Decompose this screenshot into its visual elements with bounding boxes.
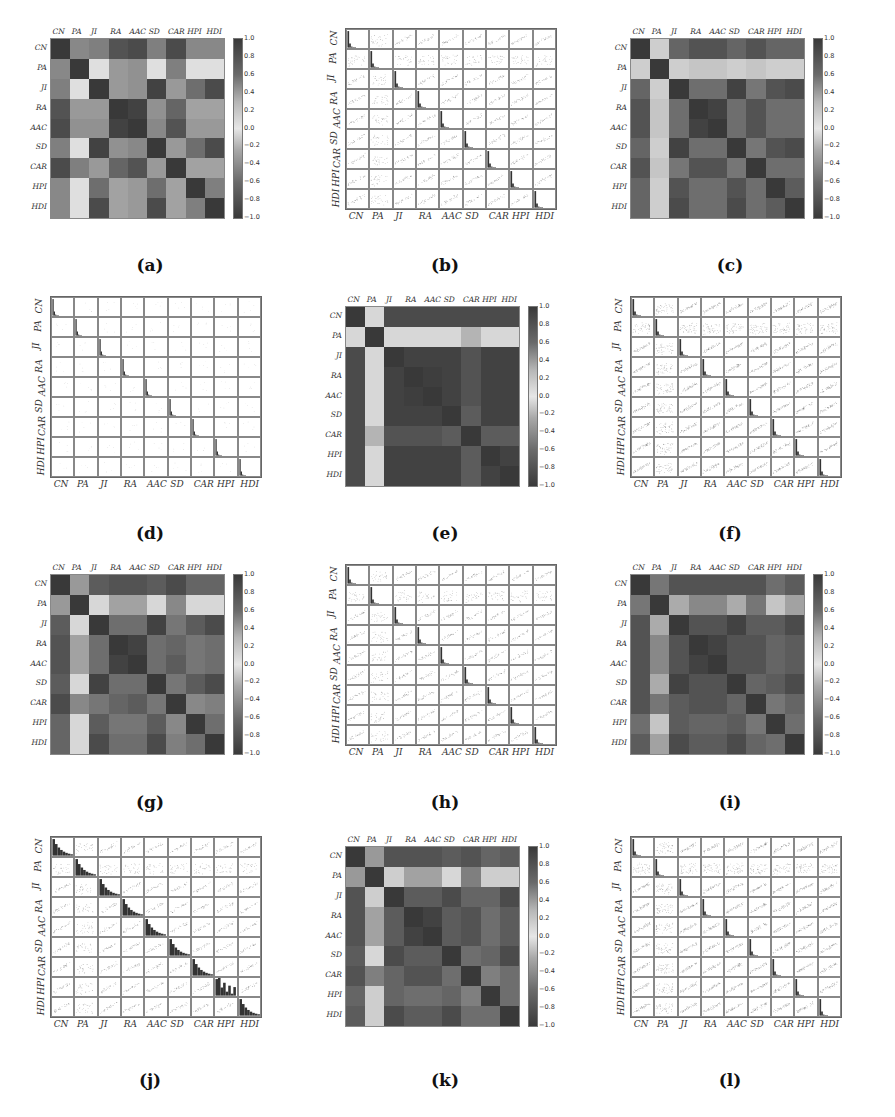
heatmap-cell xyxy=(70,595,89,615)
scatter-cell xyxy=(51,997,74,1017)
heatmap-cell xyxy=(70,158,89,178)
y-axis-label: RA xyxy=(614,359,624,372)
y-axis-label: PA xyxy=(332,871,342,880)
heatmap-cell xyxy=(147,694,166,714)
scatter-cell xyxy=(168,957,191,977)
heatmap-cell xyxy=(128,635,147,655)
heatmap-cell xyxy=(423,847,442,867)
scatter-cell xyxy=(678,997,701,1017)
heatmap-cell xyxy=(109,158,128,178)
scatter-cell xyxy=(369,189,392,209)
heatmap-cell xyxy=(689,39,708,59)
colorbar-tick: −0.2 xyxy=(824,141,840,149)
heatmap-cell xyxy=(166,734,185,754)
scatter-cell xyxy=(701,417,724,437)
scatter-cell xyxy=(439,565,462,585)
heatmap-cell xyxy=(166,99,185,119)
heatmap-cell xyxy=(481,446,500,466)
scatter-cell xyxy=(238,317,261,337)
scatter-cell xyxy=(631,857,654,877)
y-axis-label: CN xyxy=(330,851,342,860)
histogram-cell xyxy=(463,665,486,685)
scatter-cell xyxy=(214,377,237,397)
x-axis-label: HPI xyxy=(217,1019,234,1029)
heatmap-cell xyxy=(708,79,727,99)
scatter-cell xyxy=(191,877,214,897)
heatmap-cell xyxy=(727,198,746,218)
colorbar-tick: −0.6 xyxy=(539,445,555,453)
heatmap-cell xyxy=(186,138,205,158)
scatter-cell xyxy=(74,877,97,897)
heatmap-cell xyxy=(186,39,205,59)
y-axis-label: JI xyxy=(41,619,47,628)
scatter-cell xyxy=(346,169,369,189)
heatmap-cell xyxy=(650,99,669,119)
x-axis-label: CAR xyxy=(774,1019,794,1029)
scatter-cell xyxy=(51,317,74,337)
heatmap-cell xyxy=(384,907,403,927)
heatmap-cell xyxy=(746,119,765,139)
heatmap-cell xyxy=(346,986,365,1006)
scatter-cell xyxy=(509,685,532,705)
heatmap-cell xyxy=(766,575,785,595)
heatmap-cell xyxy=(708,734,727,754)
scatter-cell xyxy=(533,625,556,645)
heatmap-cell xyxy=(650,119,669,139)
y-axis-label: AAC xyxy=(332,644,342,664)
y-axis-label: HDI xyxy=(31,738,47,747)
heatmap-cell xyxy=(442,466,461,486)
scatter-cell xyxy=(214,897,237,917)
colorbar-tick: 0.2 xyxy=(539,914,549,922)
heatmap-cell xyxy=(147,138,166,158)
x-axis-label: CN xyxy=(348,835,360,844)
heatmap-cell xyxy=(461,387,480,407)
heatmap-cell xyxy=(166,655,185,675)
heatmap-cell xyxy=(689,595,708,615)
histogram-cell xyxy=(701,897,724,917)
x-axis-label: HDI xyxy=(786,563,802,572)
y-axis-label: JI xyxy=(31,882,41,889)
scatter-cell xyxy=(701,457,724,477)
heatmap-cell xyxy=(423,986,442,1006)
x-axis-label: RA xyxy=(704,479,717,489)
heatmap-cell xyxy=(669,59,688,79)
heatmap-cell xyxy=(708,655,727,675)
scatter-cell xyxy=(191,837,214,857)
scatter-cell xyxy=(346,149,369,169)
heatmap-cell xyxy=(669,595,688,615)
heatmap-cell xyxy=(631,119,650,139)
scatter-cell xyxy=(168,357,191,377)
heatmap-cell xyxy=(404,986,423,1006)
x-axis-label: HPI xyxy=(797,479,814,489)
histogram-cell xyxy=(144,917,167,937)
scatter-cell xyxy=(121,337,144,357)
scatter-cell xyxy=(486,565,509,585)
heatmap-cell xyxy=(727,158,746,178)
y-axis-label: CAR xyxy=(325,970,342,979)
scatter-cell xyxy=(631,977,654,997)
scatter-cell xyxy=(214,877,237,897)
heatmap-cell xyxy=(766,714,785,734)
scatter-cell xyxy=(794,877,817,897)
heatmap-cell xyxy=(365,426,384,446)
scatter-cell xyxy=(486,129,509,149)
heatmap-cell xyxy=(346,867,365,887)
heatmap-cell xyxy=(442,986,461,1006)
histogram-cell xyxy=(346,565,369,585)
scatter-cell xyxy=(144,357,167,377)
heatmap-cell xyxy=(500,406,519,426)
scatter-cell xyxy=(393,565,416,585)
x-axis-label: HPI xyxy=(767,27,782,36)
colorbar-tick: 0.8 xyxy=(824,588,834,596)
heatmap-cell xyxy=(147,734,166,754)
heatmap-cell xyxy=(186,714,205,734)
heatmap-cell xyxy=(404,446,423,466)
heatmap xyxy=(50,574,225,755)
x-axis-label: RA xyxy=(405,835,416,844)
y-axis-label: HDI xyxy=(31,202,47,211)
x-axis-label: RA xyxy=(124,1019,137,1029)
scatter-cell xyxy=(98,937,121,957)
scatter-cell xyxy=(794,997,817,1017)
scatter-cell xyxy=(818,417,841,437)
scatter-cell xyxy=(369,645,392,665)
